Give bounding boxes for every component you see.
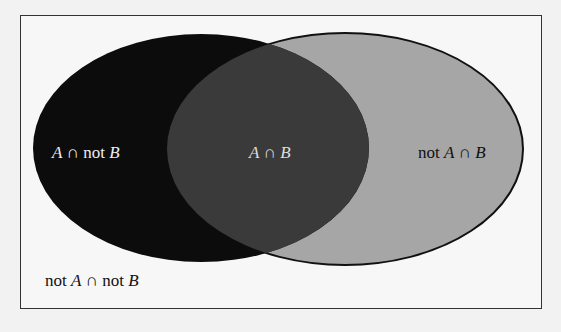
label-not-a-not-b: not A ∩ not B [45,271,139,291]
label-a-and-b: A ∩ B [249,143,291,163]
label-a-not-b: A ∩ not B [52,143,120,163]
label-not-a-b: not A ∩ B [418,143,486,163]
